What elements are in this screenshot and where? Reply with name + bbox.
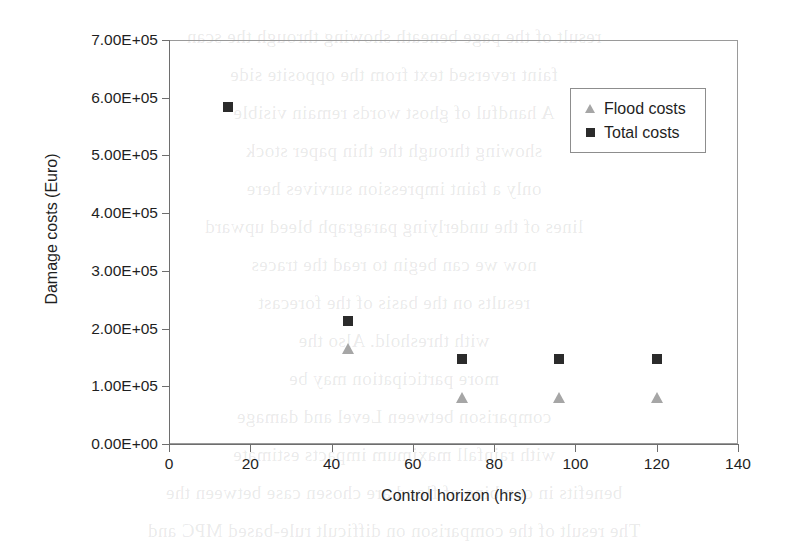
y-tick-label-wrap: 3.00E+05 [0,263,158,279]
y-tick-label-wrap: 4.00E+05 [0,205,158,221]
x-axis-title: Control horizon (hrs) [169,487,739,505]
legend-square-icon [582,128,598,137]
x-tick-mark [575,444,576,452]
x-tick-label: 20 [220,456,280,472]
y-tick-mark [162,386,170,387]
y-tick-mark [162,271,170,272]
y-axis-title: Damage costs (Euro) [43,27,61,431]
x-tick-mark [332,444,333,452]
y-tick-label-wrap: 7.00E+05 [0,32,158,48]
x-tick-mark [413,444,414,452]
legend-label: Total costs [604,124,680,141]
y-tick-mark [162,98,170,99]
y-tick-mark [162,213,170,214]
data-point-square [457,354,467,364]
data-point-triangle [651,392,663,403]
x-tick-label: 60 [383,456,443,472]
legend-marker-shape [586,128,595,137]
chart-legend: Flood costsTotal costs [570,88,706,153]
x-tick-label: 120 [627,456,687,472]
data-point-square [343,316,353,326]
y-tick-mark [162,329,170,330]
legend-triangle-icon [582,104,598,113]
y-tick-label-wrap: 6.00E+05 [0,90,158,106]
data-point-square [554,354,564,364]
y-tick-mark [162,155,170,156]
x-tick-mark [738,444,739,452]
x-tick-label: 100 [545,456,605,472]
data-point-triangle [342,343,354,354]
y-tick-mark [162,40,170,41]
x-tick-mark [657,444,658,452]
data-point-square [223,102,233,112]
scatter-chart: 0.00E+001.00E+052.00E+053.00E+054.00E+05… [0,0,788,546]
legend-label: Flood costs [604,100,686,117]
x-tick-label: 40 [302,456,362,472]
legend-item: Total costs [571,120,705,144]
y-tick-label: 0.00E+00 [38,436,158,452]
x-tick-mark [494,444,495,452]
y-tick-label-wrap: 0.00E+00 [0,436,158,452]
x-tick-mark [169,444,170,452]
x-tick-label: 140 [708,456,768,472]
legend-marker-shape [585,104,595,113]
x-tick-label: 0 [139,456,199,472]
y-tick-label-wrap: 5.00E+05 [0,147,158,163]
data-point-triangle [553,392,565,403]
x-axis-line [169,444,739,445]
data-point-square [652,354,662,364]
x-tick-mark [250,444,251,452]
y-tick-label-wrap: 1.00E+05 [0,378,158,394]
x-tick-label: 80 [464,456,524,472]
data-point-triangle [456,392,468,403]
y-tick-label-wrap: 2.00E+05 [0,321,158,337]
y-axis-line [169,40,170,445]
legend-item: Flood costs [571,96,705,120]
